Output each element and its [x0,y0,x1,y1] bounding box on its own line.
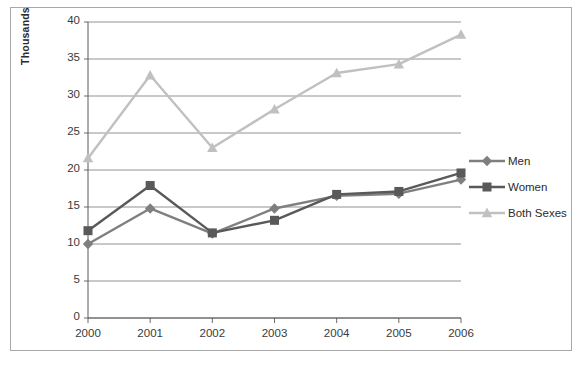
data-point-marker-diamond [482,156,492,166]
legend-marker-square-icon [468,180,506,194]
data-point-marker-square [483,183,492,192]
data-point-marker-diamond [269,203,279,213]
data-point-marker-square [270,216,279,225]
chart-legend: MenWomenBoth Sexes [468,148,573,226]
legend-label: Women [508,181,547,193]
data-point-marker-triangle [269,104,279,114]
data-point-marker-square [208,228,217,237]
series-men [83,174,466,249]
legend-label: Both Sexes [508,207,567,219]
chart-container: Thousands 0510152025303540 2000200120022… [0,0,585,365]
data-point-marker-square [146,181,155,190]
data-point-marker-triangle [145,70,155,80]
data-point-marker-square [84,226,93,235]
data-point-marker-square [457,168,466,177]
legend-item-both-sexes[interactable]: Both Sexes [468,200,573,226]
legend-item-men[interactable]: Men [468,148,573,174]
legend-label: Men [508,155,530,167]
data-point-marker-square [332,190,341,199]
data-point-marker-diamond [145,203,155,213]
data-point-marker-triangle [456,29,466,39]
data-point-marker-diamond [83,239,93,249]
legend-item-women[interactable]: Women [468,174,573,200]
legend-marker-diamond-icon [468,154,506,168]
legend-marker-triangle-icon [468,206,506,220]
data-point-marker-square [394,187,403,196]
series-women [84,168,466,237]
